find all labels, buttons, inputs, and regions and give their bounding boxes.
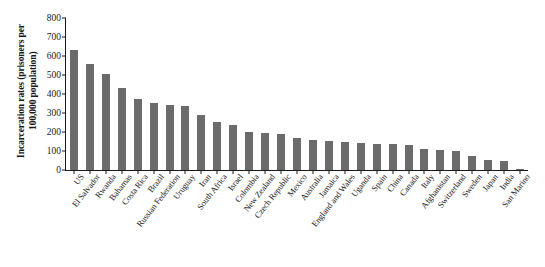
bar-slot	[337, 18, 353, 170]
bar	[389, 144, 397, 170]
bar-slot	[146, 18, 162, 170]
bar-slot	[209, 18, 225, 170]
bar	[261, 133, 269, 170]
bar-slot	[401, 18, 417, 170]
bar	[357, 143, 365, 170]
y-tick-label: 0	[56, 165, 61, 175]
bar	[213, 122, 221, 170]
bar-slot	[130, 18, 146, 170]
bar	[86, 64, 94, 170]
bar-slot	[178, 18, 194, 170]
bar	[197, 115, 205, 170]
bar-slot	[385, 18, 401, 170]
y-axis-title-text: Incarceration rates (prisoners per 100,0…	[16, 24, 40, 158]
bar	[373, 144, 381, 170]
y-tick-label: 400	[47, 89, 61, 99]
x-axis-labels: USEl SalvadorRwandaBahamasCosta RicaBraz…	[66, 172, 528, 265]
bar	[293, 138, 301, 170]
bar-slot	[162, 18, 178, 170]
bar-slot	[305, 18, 321, 170]
bar	[134, 99, 142, 170]
bar-slot	[448, 18, 464, 170]
bar	[277, 134, 285, 170]
bar-slot	[114, 18, 130, 170]
bar	[245, 132, 253, 170]
bar-slot	[464, 18, 480, 170]
x-tick-label: Spain	[369, 172, 389, 193]
bar	[150, 103, 158, 170]
bar-slot	[369, 18, 385, 170]
bar	[436, 150, 444, 170]
bar-slot	[82, 18, 98, 170]
bar	[341, 142, 349, 170]
x-tick-label: Japan	[480, 172, 500, 193]
y-tick-label: 300	[47, 108, 61, 118]
y-tick-label: 100	[47, 146, 61, 156]
bar	[70, 50, 78, 170]
bar	[309, 140, 317, 170]
y-tick-label: 800	[47, 13, 61, 23]
y-tick-label: 200	[47, 127, 61, 137]
incarceration-rates-bar-chart: Incarceration rates (prisoners per 100,0…	[0, 0, 545, 267]
bar-slot	[98, 18, 114, 170]
bar	[405, 145, 413, 170]
bar-slot	[416, 18, 432, 170]
bar-slot	[225, 18, 241, 170]
bar-slot	[321, 18, 337, 170]
bar	[181, 106, 189, 170]
bar-slot	[289, 18, 305, 170]
bar	[468, 156, 476, 170]
bar-slot	[480, 18, 496, 170]
bar	[118, 88, 126, 170]
bar-slot	[66, 18, 82, 170]
y-axis-title: Incarceration rates (prisoners per 100,0…	[10, 8, 46, 173]
bar	[484, 160, 492, 170]
bar	[420, 149, 428, 170]
bars-layer	[66, 18, 528, 170]
bar-slot	[257, 18, 273, 170]
bar-slot	[496, 18, 512, 170]
y-tick-label: 500	[47, 70, 61, 80]
y-tick-label: 700	[47, 32, 61, 42]
bar-slot	[353, 18, 369, 170]
y-tick-label: 600	[47, 51, 61, 61]
bar	[229, 125, 237, 170]
bar-slot	[432, 18, 448, 170]
bar-slot	[512, 18, 528, 170]
bar	[102, 74, 110, 170]
bar	[166, 105, 174, 170]
bar	[325, 141, 333, 170]
bar	[452, 151, 460, 170]
bar-slot	[273, 18, 289, 170]
bar-slot	[241, 18, 257, 170]
plot-area: 0100200300400500600700800	[66, 18, 528, 170]
bar	[500, 161, 508, 171]
bar-slot	[193, 18, 209, 170]
